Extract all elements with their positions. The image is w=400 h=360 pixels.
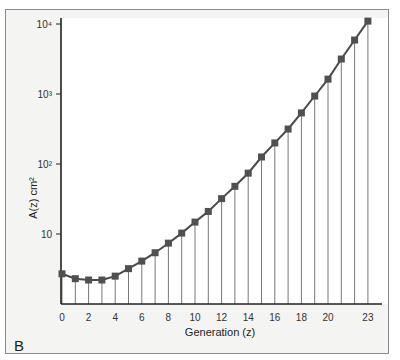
- data-point-marker: [112, 273, 119, 280]
- data-point-marker: [138, 258, 145, 265]
- y-tick-label: 10⁴: [37, 19, 52, 30]
- data-point-marker: [325, 76, 332, 83]
- y-axis-title: A(z) cm²: [27, 177, 39, 219]
- x-tick-label: 12: [216, 312, 228, 323]
- y-ticks: 1010²10³10⁴: [37, 19, 61, 240]
- data-point-marker: [245, 170, 252, 177]
- x-tick-label: 2: [86, 312, 92, 323]
- data-point-marker: [59, 270, 66, 277]
- x-tick-label: 20: [322, 312, 334, 323]
- y-tick-label: 10²: [38, 159, 53, 170]
- data-point-marker: [98, 277, 105, 284]
- chart-area: 1010²10³10⁴ 0246810121416182023 A(z) cm²…: [0, 0, 400, 360]
- data-point-marker: [72, 275, 79, 282]
- x-ticks: 0246810121416182023: [59, 312, 374, 323]
- y-tick-label: 10: [41, 229, 53, 240]
- x-axis-title: Generation (z): [185, 326, 255, 338]
- data-point-marker: [152, 249, 159, 256]
- data-point-marker: [178, 230, 185, 237]
- data-point-marker: [205, 208, 212, 215]
- data-point-marker: [85, 277, 92, 284]
- x-tick-label: 4: [112, 312, 118, 323]
- data-point-marker: [258, 153, 265, 160]
- data-point-marker: [125, 265, 132, 272]
- data-point-marker: [298, 109, 305, 116]
- x-tick-label: 0: [59, 312, 65, 323]
- data-point-marker: [364, 18, 371, 25]
- x-tick-label: 10: [189, 312, 201, 323]
- data-point-marker: [285, 126, 292, 133]
- x-tick-label: 18: [296, 312, 308, 323]
- x-tick-label: 23: [362, 312, 374, 323]
- data-point-marker: [218, 195, 225, 202]
- data-point-marker: [338, 56, 345, 63]
- panel-label: B: [14, 337, 24, 354]
- data-point-marker: [351, 37, 358, 44]
- x-tick-label: 14: [243, 312, 255, 323]
- y-tick-label: 10³: [38, 89, 53, 100]
- data-point-marker: [231, 183, 238, 190]
- x-tick-label: 6: [139, 312, 145, 323]
- data-point-marker: [271, 139, 278, 146]
- data-point-marker: [192, 219, 199, 226]
- data-point-marker: [165, 240, 172, 247]
- data-point-marker: [311, 93, 318, 100]
- x-tick-label: 8: [166, 312, 172, 323]
- x-tick-label: 16: [269, 312, 281, 323]
